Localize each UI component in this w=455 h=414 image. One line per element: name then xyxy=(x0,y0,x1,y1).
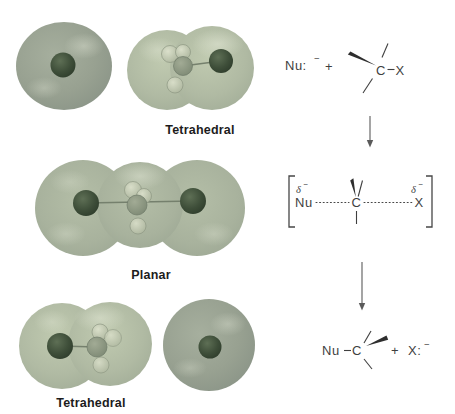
plain-bond xyxy=(363,79,373,94)
carbon-symbol: C xyxy=(376,63,386,78)
carbon-symbol: C xyxy=(352,343,362,358)
delta-left-charge: − xyxy=(304,180,309,189)
delta-right-charge: − xyxy=(419,180,424,189)
surface-highlight xyxy=(46,222,86,246)
sphere-highlight xyxy=(173,358,207,378)
product-model xyxy=(19,302,152,389)
carbon-atom xyxy=(174,57,193,76)
nucleophile-charge: − xyxy=(314,53,320,64)
reaction-arrow-1 xyxy=(367,116,373,148)
nucleophile-symbol: Nu xyxy=(295,195,313,210)
hydrogen-atom xyxy=(167,77,183,93)
halide-atom xyxy=(199,336,222,359)
figure-canvas: Tetrahedral Planar Tetrahedral xyxy=(0,0,455,414)
nucleophile-atom xyxy=(47,333,73,359)
halide-symbol: X: xyxy=(408,343,421,358)
right-bracket xyxy=(426,176,432,227)
halide-charge: − xyxy=(424,339,430,350)
label-tetrahedral-top: Tetrahedral xyxy=(165,123,234,137)
plain-bond xyxy=(364,359,372,369)
substrate-model xyxy=(127,26,254,110)
plain-bond xyxy=(382,44,388,58)
sn2-mechanism-figure: Tetrahedral Planar Tetrahedral xyxy=(0,0,455,414)
nucleophile-symbol: Nu: xyxy=(285,58,307,73)
surface-highlight xyxy=(34,310,70,334)
label-planar: Planar xyxy=(131,268,170,282)
leaving-group-sphere-model xyxy=(163,299,255,391)
hydrogen-atom xyxy=(130,218,146,234)
plus-sign: + xyxy=(325,59,333,74)
nucleophile-symbol: Nu xyxy=(322,343,340,358)
sphere-highlight xyxy=(26,77,62,99)
plus-sign: + xyxy=(391,343,399,358)
halide-atom xyxy=(180,188,206,214)
nucleophile-sphere-model xyxy=(16,22,112,110)
delta-right: δ xyxy=(411,184,417,195)
plain-bond xyxy=(364,331,371,343)
arrow-head xyxy=(359,303,365,311)
label-tetrahedral-bottom: Tetrahedral xyxy=(56,396,125,410)
surface-highlight xyxy=(194,222,234,246)
wedge-bond xyxy=(348,51,376,65)
arrow-head xyxy=(367,140,373,148)
transition-state-scheme: δ − Nu C X δ − xyxy=(289,176,432,227)
delta-left: δ xyxy=(296,184,302,195)
sphere-highlight xyxy=(210,312,246,336)
carbon-atom xyxy=(87,337,107,357)
halide-symbol: X xyxy=(414,195,423,210)
reaction-arrow-2 xyxy=(359,262,365,311)
nucleophile-atom xyxy=(51,53,76,78)
nucleophile-atom xyxy=(73,190,99,216)
hydrogen-atom xyxy=(105,330,122,347)
carbon-atom xyxy=(127,195,147,215)
hydrogen-atom xyxy=(93,357,109,373)
wedge-bond xyxy=(366,336,388,347)
halide-atom xyxy=(209,49,233,73)
transition-state-model xyxy=(35,160,245,256)
products-scheme: Nu C + X: − xyxy=(322,331,430,369)
reactants-scheme: Nu: − + C X xyxy=(285,44,405,94)
carbon-symbol: C xyxy=(352,195,362,210)
halide-symbol: X xyxy=(395,63,404,78)
